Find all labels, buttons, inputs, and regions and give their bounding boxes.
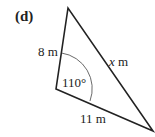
angle-label: 110° [62,75,86,91]
side-unknown-label: x m [109,54,128,70]
side-bottom-label: 11 m [80,111,106,127]
part-label: (d) [15,8,33,25]
side-left-label: 8 m [38,44,58,60]
unknown-unit: m [115,54,128,69]
